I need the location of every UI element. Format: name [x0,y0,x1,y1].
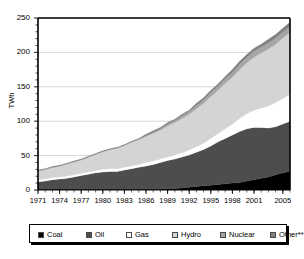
legend-label: Gas [135,231,149,239]
legend-label: Coal [47,231,62,239]
legend-item[interactable]: Hydro [172,229,201,240]
legend-label: Nuclear [229,231,255,239]
legend-swatch-icon [86,232,92,238]
legend-item[interactable]: Oil [86,229,104,240]
legend-label: Other** [279,231,304,239]
stacked-area-plot [0,0,304,259]
legend-swatch-icon [172,232,178,238]
chart-figure: TWh 050100150200250 19711974197719801983… [0,0,304,259]
legend-swatch-icon [38,232,44,238]
legend-item[interactable]: Coal [38,229,62,240]
legend-swatch-icon [270,232,276,238]
legend-swatch-icon [220,232,226,238]
legend-item[interactable]: Nuclear [220,229,255,240]
legend-swatch-icon [126,232,132,238]
legend-label: Oil [95,231,104,239]
chart-legend: CoalOilGasHydroNuclearOther** [29,224,287,243]
legend-item[interactable]: Gas [126,229,149,240]
legend-label: Hydro [181,231,201,239]
legend-item[interactable]: Other** [270,229,304,240]
